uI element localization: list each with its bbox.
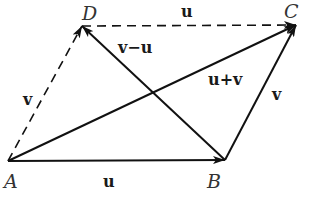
vector-dc-u-dashed bbox=[82, 25, 296, 26]
point-label-d: D bbox=[82, 4, 97, 23]
vector-ad-v-dashed bbox=[8, 26, 82, 161]
vector-diagram bbox=[0, 0, 310, 200]
vector-label-bd-v-minus-u: v−u bbox=[118, 40, 152, 56]
vector-bd-v-minus-u bbox=[82, 26, 225, 160]
vector-label-ac-u-plus-v: u+v bbox=[208, 72, 242, 88]
point-label-a: A bbox=[4, 172, 18, 191]
vector-label-bc-v: v bbox=[272, 87, 281, 103]
point-label-c: C bbox=[284, 2, 299, 21]
vector-label-dc-u: u bbox=[181, 4, 193, 20]
vector-bc-v bbox=[225, 25, 296, 160]
vector-label-ab-u: u bbox=[103, 174, 115, 190]
vector-ab-u bbox=[8, 160, 225, 161]
point-label-b: B bbox=[207, 172, 221, 191]
vector-label-ad-v: v bbox=[23, 92, 32, 108]
